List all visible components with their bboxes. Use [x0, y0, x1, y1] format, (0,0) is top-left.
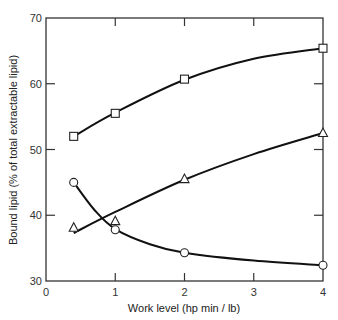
marker-square [111, 109, 119, 117]
x-tick-label: 4 [320, 286, 326, 298]
marker-triangle [69, 223, 78, 232]
axis-ticks: 012343040506070 [30, 12, 326, 298]
x-tick-label: 0 [43, 286, 49, 298]
marker-circle [181, 249, 189, 257]
x-tick-label: 2 [181, 286, 187, 298]
marker-square [319, 44, 327, 52]
marker-triangle [319, 128, 328, 137]
line-chart: 012343040506070 Work level (hp min / lb)… [0, 0, 338, 320]
plot-border [46, 18, 323, 281]
plot-frame [46, 18, 323, 281]
data-markers [69, 44, 327, 269]
x-tick-label: 3 [251, 286, 257, 298]
marker-triangle [111, 216, 120, 225]
series-triangle-line [74, 133, 323, 233]
marker-circle [319, 261, 327, 269]
marker-square [181, 75, 189, 83]
marker-square [70, 132, 78, 140]
marker-circle [111, 226, 119, 234]
y-tick-label: 50 [30, 144, 42, 156]
y-tick-label: 70 [30, 12, 42, 24]
marker-circle [70, 178, 78, 186]
y-tick-label: 30 [30, 275, 42, 287]
x-axis-label: Work level (hp min / lb) [128, 302, 240, 314]
data-curves [74, 48, 323, 265]
y-axis-label: Bound lipid (% of total extractable lipi… [7, 55, 19, 245]
y-tick-label: 60 [30, 78, 42, 90]
x-tick-label: 1 [112, 286, 118, 298]
y-tick-label: 40 [30, 209, 42, 221]
series-square-line [74, 48, 323, 136]
